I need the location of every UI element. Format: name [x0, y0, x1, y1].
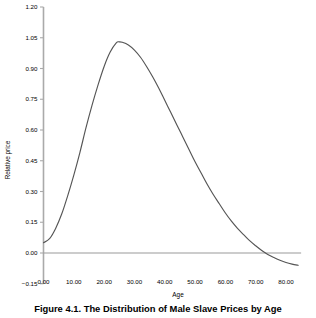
x-axis-tick-labels: 0.0010.0020.0030.0040.0050.0060.0070.008…	[37, 278, 294, 285]
x-tick-label: 20.00	[96, 278, 112, 285]
y-tick-label: 1.05	[25, 34, 38, 41]
x-tick-label: 80.00	[278, 278, 294, 285]
figure-container: −0.150.000.150.300.450.600.750.901.051.2…	[0, 0, 316, 318]
chart-canvas: −0.150.000.150.300.450.600.750.901.051.2…	[0, 0, 316, 318]
y-tick-label: 0.60	[25, 126, 38, 133]
x-tick-label: 30.00	[127, 278, 143, 285]
y-tick-label: 0.00	[25, 249, 38, 256]
x-tick-label: 70.00	[248, 278, 264, 285]
y-tick-label: −0.15	[22, 280, 38, 287]
x-tick-label: 50.00	[187, 278, 203, 285]
x-tick-label: 40.00	[157, 278, 173, 285]
x-axis-title: Age	[172, 291, 184, 299]
y-tick-label: 1.20	[25, 3, 38, 10]
y-tick-label: 0.45	[25, 157, 38, 164]
figure-caption: Figure 4.1. The Distribution of Male Sla…	[0, 303, 316, 315]
y-tick-label: 0.90	[25, 65, 38, 72]
y-tick-label: 0.15	[25, 218, 38, 225]
x-tick-label: 10.00	[66, 278, 82, 285]
y-tick-label: 0.75	[25, 95, 38, 102]
x-tick-label: 0.00	[37, 278, 50, 285]
chart-background	[0, 0, 316, 318]
y-axis-title: Relative price	[4, 140, 12, 179]
x-tick-label: 60.00	[218, 278, 234, 285]
y-tick-label: 0.30	[25, 188, 38, 195]
